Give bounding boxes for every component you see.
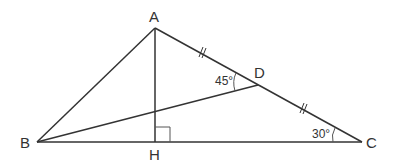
segment-AB xyxy=(37,28,155,142)
point-label-B: B xyxy=(20,134,30,151)
point-label-D: D xyxy=(254,64,265,81)
angle-label-D: 45° xyxy=(215,74,233,88)
segment-BD xyxy=(37,85,258,142)
point-label-C: C xyxy=(366,134,377,151)
triangle-diagram: 45° 30° A B C D H xyxy=(0,0,394,166)
point-label-H: H xyxy=(149,146,160,163)
point-label-A: A xyxy=(149,8,159,25)
segment-AC xyxy=(155,28,362,142)
angle-arc-C xyxy=(332,128,335,142)
right-angle-marker xyxy=(155,127,170,142)
angle-label-C: 30° xyxy=(312,127,330,141)
angle-arc-D xyxy=(234,73,236,91)
